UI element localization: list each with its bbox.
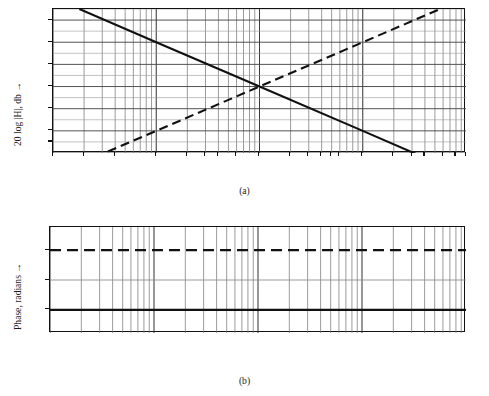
magnitude-y-tick-mark	[48, 19, 52, 20]
magnitude-x-tick-mark	[155, 152, 156, 156]
magnitude-x-tick-mark	[114, 152, 115, 156]
bode-plot-figure: 20 log |H|, db → (a) Phase, radians → (b…	[0, 0, 489, 396]
magnitude-x-tick-mark	[465, 152, 466, 156]
magnitude-plot-svg	[53, 9, 466, 153]
magnitude-y-axis-title-text: 20 log |H|, db	[12, 94, 23, 146]
magnitude-x-tick-mark	[217, 152, 218, 156]
magnitude-x-tick-mark	[411, 152, 412, 156]
magnitude-y-tick-mark	[48, 107, 52, 108]
phase-y-tick-mark	[45, 308, 49, 309]
arrow-icon: →	[12, 82, 23, 92]
magnitude-x-tick-mark	[204, 152, 205, 156]
magnitude-x-tick-mark	[186, 152, 187, 156]
magnitude-y-tick-mark	[48, 140, 52, 141]
magnitude-x-tick-mark	[258, 152, 259, 156]
magnitude-y-tick-mark	[48, 129, 52, 130]
magnitude-y-tick-mark	[48, 41, 52, 42]
magnitude-x-tick-mark	[442, 152, 443, 156]
phase-y-axis-title-text: Phase, radians	[12, 275, 23, 330]
magnitude-y-axis-title: 20 log |H|, db →	[12, 82, 23, 146]
magnitude-y-tick-mark	[48, 63, 52, 64]
magnitude-plot-area	[52, 8, 465, 152]
panel-a-caption: (a)	[0, 185, 489, 196]
magnitude-x-tick-mark	[454, 152, 455, 156]
magnitude-panel: 20 log |H|, db → (a)	[0, 0, 489, 200]
magnitude-x-tick-mark	[320, 152, 321, 156]
magnitude-x-tick-mark	[83, 152, 84, 156]
phase-y-axis-title: Phase, radians →	[12, 263, 23, 330]
arrow-icon: →	[12, 263, 23, 273]
magnitude-x-tick-mark	[235, 152, 236, 156]
magnitude-x-tick-mark	[361, 152, 362, 156]
magnitude-x-tick-mark	[52, 152, 53, 156]
magnitude-y-tick-mark	[48, 85, 52, 86]
panel-b-caption: (b)	[0, 375, 489, 386]
magnitude-x-tick-mark	[330, 152, 331, 156]
phase-y-tick-mark	[45, 249, 49, 250]
magnitude-x-tick-mark	[423, 152, 424, 156]
magnitude-series-1	[108, 9, 439, 151]
magnitude-x-tick-mark	[307, 152, 308, 156]
phase-plot-svg	[50, 227, 466, 333]
phase-panel: Phase, radians → (b)	[0, 200, 489, 396]
phase-plot-area	[49, 226, 465, 332]
magnitude-x-tick-mark	[338, 152, 339, 156]
magnitude-x-tick-mark	[392, 152, 393, 156]
phase-y-tick-mark	[45, 279, 49, 280]
magnitude-x-tick-mark	[289, 152, 290, 156]
